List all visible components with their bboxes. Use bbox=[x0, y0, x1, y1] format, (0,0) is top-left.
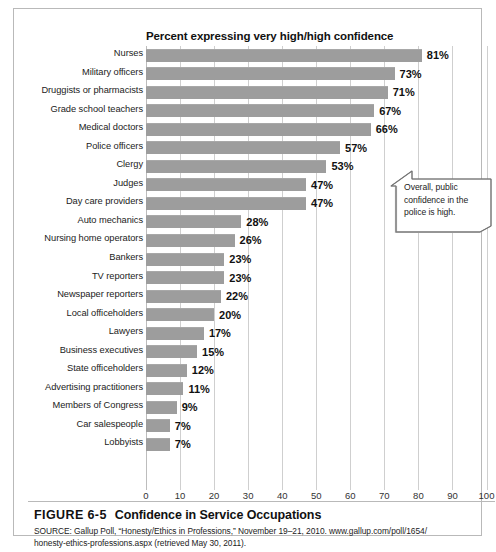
bar-fill bbox=[146, 123, 371, 136]
bar-category-label: Car salespeople bbox=[28, 419, 143, 429]
chart-title: Percent expressing very high/high confid… bbox=[146, 30, 393, 42]
bar-category-label: Advertising practitioners bbox=[28, 382, 143, 392]
bar-value-label: 7% bbox=[175, 419, 191, 433]
x-tick-label-100: 100 bbox=[479, 490, 495, 500]
bar-category-label: Auto mechanics bbox=[28, 215, 143, 225]
bar-value-label: 12% bbox=[192, 363, 214, 377]
bar-value-label: 7% bbox=[175, 437, 191, 451]
bar: 17% bbox=[146, 327, 204, 340]
bar-category-label: Local officeholders bbox=[28, 308, 143, 318]
bar: 7% bbox=[146, 419, 170, 432]
bar-category-label: Lawyers bbox=[28, 326, 143, 336]
bar-fill bbox=[146, 345, 197, 358]
bar-fill bbox=[146, 141, 340, 154]
source-line-2: honesty-ethics-professions.aspx (retriev… bbox=[34, 538, 246, 548]
bar-fill bbox=[146, 234, 235, 247]
bar-category-label: Nurses bbox=[28, 48, 143, 58]
source-line-1: SOURCE: Gallup Poll, “Honesty/Ethics in … bbox=[34, 526, 427, 536]
bar-fill bbox=[146, 160, 326, 173]
x-tick-label-10: 10 bbox=[175, 490, 186, 500]
bar-fill bbox=[146, 308, 214, 321]
bar: 47% bbox=[146, 178, 306, 191]
bar-row: Druggists or pharmacists71% bbox=[28, 83, 495, 102]
bar-fill bbox=[146, 104, 374, 117]
bar-fill bbox=[146, 438, 170, 451]
bar-row: State officeholders12% bbox=[28, 361, 495, 380]
bar-category-label: Members of Congress bbox=[28, 400, 143, 410]
bar: 7% bbox=[146, 438, 170, 451]
x-tick-label-50: 50 bbox=[311, 490, 322, 500]
annotation-callout: Overall, public confidence in the police… bbox=[390, 170, 492, 233]
bar-fill bbox=[146, 290, 221, 303]
bar-row: Advertising practitioners11% bbox=[28, 380, 495, 399]
bar: 73% bbox=[146, 67, 395, 80]
bar-value-label: 11% bbox=[188, 382, 209, 396]
chart-plot-area: Percent expressing very high/high confid… bbox=[28, 18, 495, 500]
x-axis-ticks: 0102030405060708090100 bbox=[28, 490, 495, 500]
figure-title: Confidence in Service Occupations bbox=[115, 508, 321, 522]
bar-category-label: Bankers bbox=[28, 252, 143, 262]
bar-fill bbox=[146, 364, 187, 377]
bar-fill bbox=[146, 253, 224, 266]
bar-value-label: 23% bbox=[229, 271, 251, 285]
bar-row: Lobbyists7% bbox=[28, 435, 495, 454]
bar: 15% bbox=[146, 345, 197, 358]
bar: 67% bbox=[146, 104, 374, 117]
bar: 26% bbox=[146, 234, 235, 247]
bar-row: Nurses81% bbox=[28, 46, 495, 65]
caption-source: SOURCE: Gallup Poll, “Honesty/Ethics in … bbox=[34, 526, 487, 549]
bar-row: Members of Congress9% bbox=[28, 398, 495, 417]
bar-value-label: 23% bbox=[229, 252, 251, 266]
x-tick-label-60: 60 bbox=[345, 490, 356, 500]
bar-row: Nursing home operators26% bbox=[28, 231, 495, 250]
bar: 23% bbox=[146, 253, 224, 266]
bar: 12% bbox=[146, 364, 187, 377]
bar: 53% bbox=[146, 160, 326, 173]
bar: 66% bbox=[146, 123, 371, 136]
bar-rows: Nurses81%Military officers73%Druggists o… bbox=[28, 46, 495, 454]
x-tick-label-20: 20 bbox=[209, 490, 220, 500]
bar-value-label: 57% bbox=[345, 141, 367, 155]
bar-row: Car salespeople7% bbox=[28, 417, 495, 436]
bar-fill bbox=[146, 419, 170, 432]
bar: 11% bbox=[146, 382, 183, 395]
bar-category-label: Military officers bbox=[28, 67, 143, 77]
bar-value-label: 28% bbox=[246, 215, 268, 229]
bar-row: Grade school teachers67% bbox=[28, 102, 495, 121]
bar-row: Police officers57% bbox=[28, 139, 495, 158]
bar-value-label: 17% bbox=[209, 326, 231, 340]
bar: 81% bbox=[146, 49, 422, 62]
bar-value-label: 67% bbox=[379, 104, 401, 118]
bar-category-label: Clergy bbox=[28, 159, 143, 169]
bar-category-label: TV reporters bbox=[28, 271, 143, 281]
bar: 9% bbox=[146, 401, 177, 414]
bar-category-label: Day care providers bbox=[28, 196, 143, 206]
x-tick-label-80: 80 bbox=[413, 490, 424, 500]
figure-frame: Percent expressing very high/high confid… bbox=[13, 8, 482, 536]
bar-row: Lawyers17% bbox=[28, 324, 495, 343]
bar-row: TV reporters23% bbox=[28, 269, 495, 288]
bar-category-label: Medical doctors bbox=[28, 122, 143, 132]
x-tick-label-90: 90 bbox=[447, 490, 458, 500]
x-tick-label-0: 0 bbox=[143, 490, 148, 500]
bar-fill bbox=[146, 197, 306, 210]
x-tick-label-70: 70 bbox=[379, 490, 390, 500]
bar-fill bbox=[146, 86, 388, 99]
caption-heading: FIGURE 6-5Confidence in Service Occupati… bbox=[34, 508, 487, 522]
bar-fill bbox=[146, 401, 177, 414]
bar-value-label: 47% bbox=[311, 196, 333, 210]
bar-category-label: State officeholders bbox=[28, 363, 143, 373]
bar-value-label: 15% bbox=[202, 345, 224, 359]
bar-category-label: Druggists or pharmacists bbox=[28, 85, 143, 95]
bar-fill bbox=[146, 178, 306, 191]
bar-row: Business executives15% bbox=[28, 343, 495, 362]
x-tick-label-30: 30 bbox=[243, 490, 254, 500]
bar-fill bbox=[146, 382, 183, 395]
bar-value-label: 47% bbox=[311, 178, 333, 192]
bar-category-label: Nursing home operators bbox=[28, 233, 143, 243]
bar: 47% bbox=[146, 197, 306, 210]
bar-category-label: Newspaper reporters bbox=[28, 289, 143, 299]
bar-fill bbox=[146, 215, 241, 228]
figure-number: FIGURE 6-5 bbox=[34, 508, 107, 522]
